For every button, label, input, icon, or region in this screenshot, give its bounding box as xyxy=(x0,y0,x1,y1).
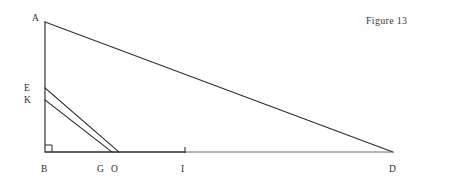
vertex-label-g: G xyxy=(97,165,104,175)
vertex-label-e: E xyxy=(24,84,30,94)
figure-caption: Figure 13 xyxy=(366,16,407,26)
vertex-label-i: I xyxy=(181,165,184,175)
segment-kg xyxy=(45,100,112,152)
vertex-label-b: B xyxy=(41,165,48,175)
segment-eo xyxy=(45,88,119,152)
vertex-label-a: A xyxy=(32,14,39,24)
geometry-canvas xyxy=(0,0,456,185)
vertex-label-o: O xyxy=(111,165,118,175)
figure-13-diagram: A B D E K G O I Figure 13 xyxy=(0,0,456,185)
vertex-label-k: K xyxy=(24,96,31,106)
vertex-label-d: D xyxy=(389,165,396,175)
right-angle-marker-icon xyxy=(45,145,52,152)
